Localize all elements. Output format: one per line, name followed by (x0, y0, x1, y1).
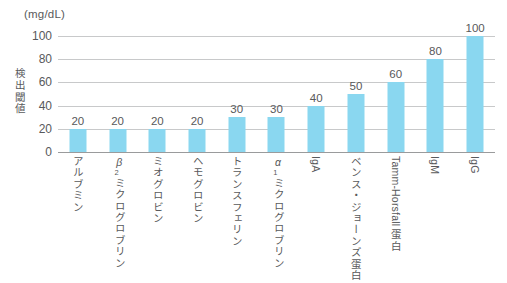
y-tick-label: 60 (6, 75, 52, 89)
x-axis-category-label: トランスフェリン (220, 156, 254, 249)
x-axis-category-label: IgA (299, 156, 333, 174)
bar-value-label: 30 (230, 103, 243, 115)
bar-slot: 20 (137, 36, 177, 152)
x-axis-category-label: アルブミン (61, 156, 95, 215)
x-axis-category-text: IgM (429, 156, 441, 174)
bar-value-label: 50 (350, 80, 363, 92)
x-axis-category-label: IgM (418, 156, 452, 176)
x-axis-category-label: β2ミクログロブリン (101, 156, 135, 271)
bar-slot: 50 (336, 36, 376, 152)
x-axis-category-text: Tamm-Horsfall 蛋白 (390, 156, 402, 252)
bar-value-label: 20 (151, 115, 164, 127)
x-axis-category-text: α1ミクログロブリン (269, 156, 284, 269)
bar (387, 82, 404, 152)
x-axis-category-label: ベンス・ジョーンズ蛋白 (339, 156, 373, 283)
bar (308, 106, 325, 152)
x-axis-category-text: トランスフェリン (231, 156, 243, 247)
x-axis-category-label: α1ミクログロブリン (260, 156, 294, 271)
bar (189, 129, 206, 152)
y-tick-label: 20 (6, 122, 52, 136)
bar-value-label: 20 (191, 115, 204, 127)
bar (149, 129, 166, 152)
bar (109, 129, 126, 152)
x-axis-category-text: IgA (310, 156, 322, 172)
bar-slot: 30 (217, 36, 257, 152)
bar (347, 94, 364, 152)
bar-slot: 80 (416, 36, 456, 152)
y-axis-ticks: 100806040200 (0, 36, 52, 152)
bar-slot: 20 (177, 36, 217, 152)
bar-value-label: 20 (111, 115, 124, 127)
x-axis-category-label: Tamm-Horsfall 蛋白 (379, 156, 413, 254)
y-tick-label: 80 (6, 52, 52, 66)
bar-slot: 20 (98, 36, 138, 152)
x-axis-labels: アルブミンβ2ミクログロブリンミオグロビンヘモグロビントランスフェリンα1ミクロ… (58, 156, 495, 266)
bar-value-label: 60 (389, 68, 402, 80)
y-tick-label: 0 (6, 145, 52, 159)
bar-value-label: 100 (466, 22, 485, 34)
bar-series: 20202020303040506080100 (58, 36, 495, 152)
x-axis-category-label: ミオグロビン (140, 156, 174, 226)
bar-slot: 40 (296, 36, 336, 152)
x-axis-category-text: ベンス・ジョーンズ蛋白 (350, 156, 362, 281)
bar-slot: 100 (455, 36, 495, 152)
bar-value-label: 20 (71, 115, 84, 127)
bar (228, 117, 245, 152)
bar-slot: 60 (376, 36, 416, 152)
bar-slot: 30 (257, 36, 297, 152)
bar-value-label: 40 (310, 92, 323, 104)
bar (467, 36, 484, 152)
unit-caption: (mg/dL) (24, 8, 65, 20)
x-axis-category-text: ヘモグロビン (191, 156, 203, 224)
bar (427, 59, 444, 152)
x-axis-category-text: ミオグロビン (151, 156, 163, 224)
x-axis-category-text: β2ミクログロブリン (110, 156, 125, 269)
bar-value-label: 30 (270, 103, 283, 115)
y-tick-label: 40 (6, 99, 52, 113)
bar-value-label: 80 (429, 45, 442, 57)
bar (69, 129, 86, 152)
bar-slot: 20 (58, 36, 98, 152)
y-tick-label: 100 (6, 29, 52, 43)
bar (268, 117, 285, 152)
axis-baseline (58, 152, 495, 153)
x-axis-category-label: IgG (458, 156, 492, 176)
x-axis-category-label: ヘモグロビン (180, 156, 214, 226)
x-axis-category-text: IgG (469, 156, 481, 174)
x-axis-category-text: アルブミン (72, 156, 84, 213)
